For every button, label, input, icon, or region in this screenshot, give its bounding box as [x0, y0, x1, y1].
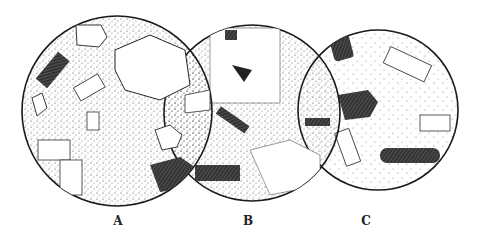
panel-label-c: C	[361, 214, 371, 228]
microscope-views-illustration	[0, 0, 477, 241]
panel-label-b: B	[243, 214, 253, 228]
panel-a	[22, 16, 212, 206]
panel-label-a: A	[113, 214, 122, 228]
